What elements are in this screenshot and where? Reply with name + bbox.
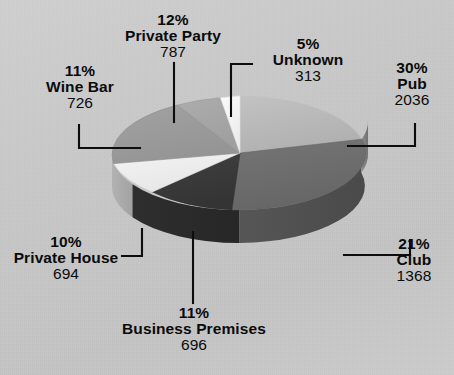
pie-label-private-house: 10% Private House 694: [0, 234, 132, 281]
chart-canvas: 12% Private Party 787 5% Unknown 313 30%…: [0, 0, 454, 375]
pie-label-club-percent: 21%: [379, 236, 449, 252]
pie-label-private-house-name: Private House: [0, 250, 132, 266]
pie-label-business-premises-percent: 11%: [99, 305, 289, 321]
pie-label-club-name: Club: [379, 252, 449, 268]
pie-label-club: 21% Club 1368: [379, 236, 449, 283]
pie-label-private-house-value: 694: [0, 266, 132, 282]
pie-label-pub-percent: 30%: [377, 60, 447, 76]
pie-label-private-party: 12% Private Party 787: [93, 12, 253, 59]
pie-label-business-premises-value: 696: [99, 337, 289, 353]
pie-label-wine-bar-name: Wine Bar: [19, 79, 141, 95]
pie-label-unknown-name: Unknown: [248, 52, 368, 68]
pie-label-wine-bar-percent: 11%: [19, 63, 141, 79]
pie-label-pub: 30% Pub 2036: [377, 60, 447, 107]
pie-label-pub-value: 2036: [377, 92, 447, 108]
pie-label-pub-name: Pub: [377, 76, 447, 92]
pie-label-private-house-percent: 10%: [0, 234, 132, 250]
pie-label-private-party-name: Private Party: [93, 28, 253, 44]
pie-label-unknown: 5% Unknown 313: [248, 36, 368, 83]
pie-label-private-party-percent: 12%: [93, 12, 253, 28]
pie-label-unknown-percent: 5%: [248, 36, 368, 52]
pie-label-wine-bar-value: 726: [19, 95, 141, 111]
pie-label-business-premises-name: Business Premises: [99, 321, 289, 337]
pie-label-club-value: 1368: [379, 268, 449, 284]
pie-label-business-premises: 11% Business Premises 696: [99, 305, 289, 352]
pie-label-private-party-value: 787: [93, 44, 253, 60]
pie-label-unknown-value: 313: [248, 68, 368, 84]
pie-label-wine-bar: 11% Wine Bar 726: [19, 63, 141, 110]
